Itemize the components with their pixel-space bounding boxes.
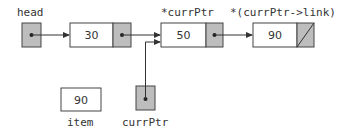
node-50-value: 50 [177, 29, 191, 42]
item-value: 90 [74, 94, 88, 107]
diagram-canvas: 30 50 90 90 [0, 0, 346, 133]
node-30-value: 30 [85, 29, 99, 42]
node-30: 30 [70, 23, 131, 47]
node-50: 50 [161, 23, 223, 47]
linked-list-diagram: head *currPtr *(currPtr->link) item curr… [0, 0, 346, 133]
node-90: 90 [253, 23, 314, 47]
node-90-value: 90 [268, 29, 282, 42]
item-box: 90 [61, 88, 101, 111]
